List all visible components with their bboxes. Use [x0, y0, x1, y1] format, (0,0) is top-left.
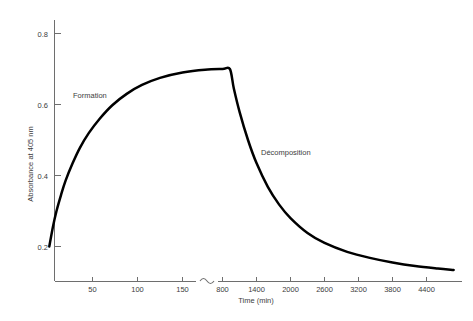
y-tick-label-0.4: 0.4 [38, 172, 48, 181]
x-tick-label-100: 100 [131, 285, 144, 294]
y-tick-label-0.6: 0.6 [38, 101, 48, 110]
x-tick-label-50: 50 [88, 285, 96, 294]
y-axis-title: Absorbance at 405 nm [26, 126, 35, 201]
x-tick-label-3800: 3800 [384, 285, 401, 294]
x-tick-label-800: 800 [216, 285, 229, 294]
chart-figure: 0.8 0.6 0.4 0.2 Absorbance at 405 nm 50 … [0, 0, 473, 321]
x-axis-title: Time (min) [238, 296, 274, 305]
x-tick-label-150: 150 [176, 285, 189, 294]
y-tick-label-0.2: 0.2 [38, 243, 48, 252]
annotation-decomposition: Décomposition [261, 148, 311, 157]
x-tick-label-2600: 2600 [316, 285, 333, 294]
x-tick-label-4400: 4400 [418, 285, 435, 294]
axis-break-tilde-icon [200, 279, 214, 284]
absorbance-curve [49, 68, 453, 270]
x-tick-label-1400: 1400 [248, 285, 265, 294]
absorbance-time-plot: 0.8 0.6 0.4 0.2 Absorbance at 405 nm 50 … [0, 0, 473, 321]
y-tick-label-0.8: 0.8 [38, 30, 48, 39]
annotation-formation: Formation [73, 91, 107, 100]
x-tick-label-3200: 3200 [350, 285, 367, 294]
x-tick-label-2000: 2000 [282, 285, 299, 294]
